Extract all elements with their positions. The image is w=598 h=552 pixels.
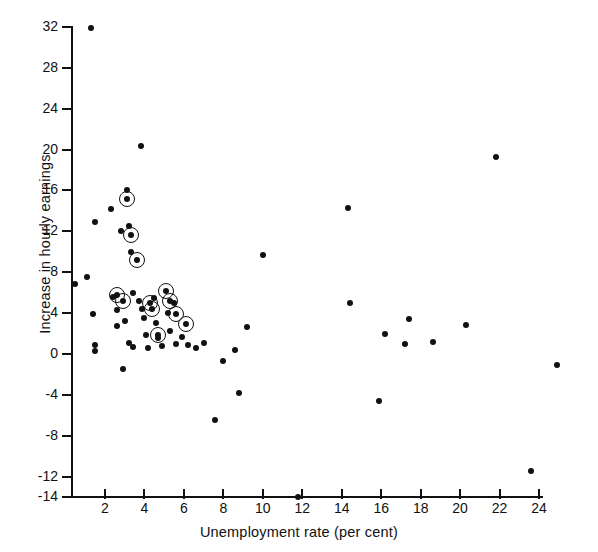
data-point (159, 343, 165, 349)
data-point (236, 390, 242, 396)
plot-data-area (0, 0, 598, 552)
data-point (402, 341, 408, 347)
data-point (130, 290, 136, 296)
data-point (130, 344, 136, 350)
data-point (167, 328, 173, 334)
data-point (114, 323, 120, 329)
scatter-plot-figure: -14-12-8-4048121620242832 24681012141618… (0, 0, 598, 552)
data-point (92, 342, 98, 348)
data-point-highlighted (167, 298, 173, 304)
data-point (143, 332, 149, 338)
data-point (376, 398, 382, 404)
data-point (145, 345, 151, 351)
data-point (212, 417, 218, 423)
data-point (244, 324, 250, 330)
data-point (136, 298, 142, 304)
data-point (92, 348, 98, 354)
data-point (72, 281, 78, 287)
data-point (90, 311, 96, 317)
data-point (120, 366, 126, 372)
data-point (138, 143, 144, 149)
data-point-highlighted (155, 332, 161, 338)
data-point (193, 345, 199, 351)
data-point (201, 340, 207, 346)
data-point (345, 205, 351, 211)
data-point (347, 300, 353, 306)
data-point (463, 322, 469, 328)
data-point-highlighted (124, 196, 130, 202)
data-point (153, 320, 159, 326)
data-point (295, 494, 301, 500)
y-axis-label: Increase in hourly earnings (37, 104, 53, 384)
data-point (141, 315, 147, 321)
data-point (554, 362, 560, 368)
data-point (122, 318, 128, 324)
data-point (406, 316, 412, 322)
data-point (84, 274, 90, 280)
data-point (179, 334, 185, 340)
data-point (260, 252, 266, 258)
data-point (232, 347, 238, 353)
data-point (185, 342, 191, 348)
x-axis-label: Unemployment rate (per cent) (0, 524, 598, 540)
data-point (220, 358, 226, 364)
data-point-highlighted (120, 298, 126, 304)
data-point (173, 341, 179, 347)
data-point (430, 339, 436, 345)
data-point-highlighted (134, 257, 140, 263)
data-point (382, 331, 388, 337)
data-point (108, 206, 114, 212)
data-point (88, 25, 94, 31)
data-point (92, 219, 98, 225)
data-point (493, 154, 499, 160)
data-point (528, 468, 534, 474)
